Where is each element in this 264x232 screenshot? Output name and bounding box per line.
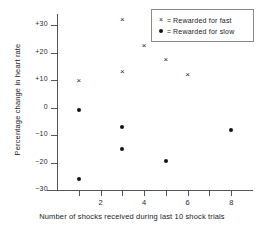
data-point-fast: × — [141, 42, 148, 49]
data-point-fast: × — [75, 77, 82, 84]
data-point-fast: × — [184, 71, 191, 78]
x-tick-mark — [209, 191, 210, 196]
data-point-slow — [119, 145, 126, 152]
data-point-fast: × — [119, 68, 126, 75]
x-tick-label: 6 — [178, 198, 198, 207]
legend-separator-fast: = — [165, 17, 173, 24]
y-tick-mark — [51, 80, 58, 81]
x-tick-label: 2 — [91, 198, 111, 207]
dot-marker-icon — [157, 27, 165, 35]
y-axis-line — [57, 14, 58, 191]
legend-separator-slow: = — [165, 28, 173, 35]
y-tick-label: −20 — [18, 158, 48, 165]
legend-label-fast: Rewarded for fast — [173, 17, 232, 24]
x-tick-mark — [79, 191, 80, 196]
y-tick-label: −30 — [18, 185, 48, 192]
x-tick-mark — [101, 191, 102, 196]
data-point-slow — [75, 107, 82, 114]
y-tick-label: 0 — [18, 103, 48, 110]
cross-marker-icon: × — [157, 16, 165, 24]
x-tick-mark — [122, 191, 123, 196]
x-tick-mark — [231, 191, 232, 196]
y-tick-mark — [51, 25, 58, 26]
scatter-chart-figure: +30+20+100−10−20−30 2468 ×××××× × = Rewa… — [0, 0, 264, 232]
y-tick-mark — [51, 163, 58, 164]
plot-area: +30+20+100−10−20−30 2468 ×××××× × = Rewa… — [0, 0, 264, 232]
y-axis-title: Percentage change in heart rate — [13, 20, 22, 180]
x-tick-mark — [188, 191, 189, 196]
x-tick-label: 8 — [221, 198, 241, 207]
data-point-slow — [75, 176, 82, 183]
y-tick-label: −10 — [18, 130, 48, 137]
y-tick-label: +30 — [18, 20, 48, 27]
y-tick-label: +20 — [18, 48, 48, 55]
legend-label-slow: Rewarded for slow — [173, 28, 234, 35]
x-tick-mark — [144, 191, 145, 196]
y-tick-mark — [51, 108, 58, 109]
x-axis-title: Number of shocks received during last 10… — [0, 212, 264, 221]
data-point-slow — [119, 123, 126, 130]
legend: × = Rewarded for fast = Rewarded for slo… — [151, 9, 254, 42]
y-tick-mark — [51, 190, 58, 191]
x-tick-label: 4 — [134, 198, 154, 207]
y-tick-mark — [51, 135, 58, 136]
legend-item-fast: × = Rewarded for fast — [157, 15, 249, 25]
data-point-fast: × — [119, 16, 126, 23]
data-point-slow — [228, 126, 235, 133]
legend-item-slow: = Rewarded for slow — [157, 26, 249, 36]
data-point-slow — [162, 158, 169, 165]
y-tick-label: +10 — [18, 75, 48, 82]
y-tick-mark — [51, 53, 58, 54]
data-point-fast: × — [162, 56, 169, 63]
x-tick-mark — [166, 191, 167, 196]
